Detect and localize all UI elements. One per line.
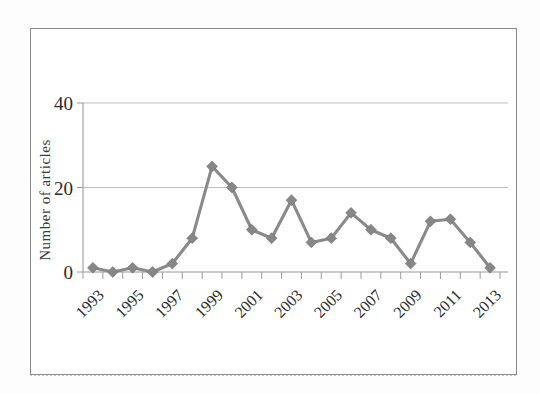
figure-frame	[30, 28, 517, 375]
scan-edge-artifact	[30, 374, 517, 376]
figure-page: 02040 1993199519971999200120032005200720…	[0, 0, 540, 394]
